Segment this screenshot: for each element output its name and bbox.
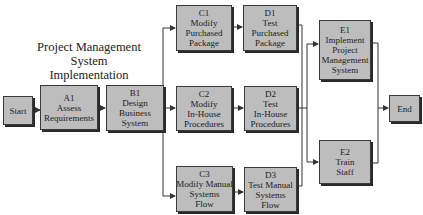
title-line-2: System Implementation bbox=[30, 54, 148, 82]
node-id: E2 bbox=[340, 147, 350, 157]
node-label-line: System bbox=[332, 65, 359, 75]
node-label-line: Modify bbox=[191, 18, 218, 28]
node-a1-assess-requirements[interactable]: A1 Assess Requirements bbox=[40, 85, 98, 130]
node-label-line: Flow bbox=[261, 200, 280, 210]
node-e2-train-staff[interactable]: E2 Train Staff bbox=[319, 140, 371, 184]
end-node[interactable]: End bbox=[389, 95, 420, 122]
node-label-line: Test bbox=[263, 99, 278, 109]
node-id: C2 bbox=[199, 89, 210, 99]
node-d3-test-manual-systems-flow[interactable]: D3 Test Manual Systems Flow bbox=[244, 167, 297, 212]
node-id: D3 bbox=[265, 170, 276, 180]
start-label: Start bbox=[10, 106, 27, 116]
node-label-line: Design bbox=[122, 98, 148, 108]
node-id: C1 bbox=[199, 8, 210, 18]
node-label-line: Business bbox=[119, 108, 151, 118]
node-id: C3 bbox=[199, 169, 210, 179]
node-label-line: Purchased bbox=[186, 28, 223, 38]
node-label-line: Package bbox=[189, 38, 219, 48]
node-e1-implement-project-management-system[interactable]: E1 Implement Project Management System bbox=[319, 20, 371, 80]
node-label-line: System bbox=[122, 118, 149, 128]
node-label-line: Systems bbox=[189, 189, 219, 199]
node-label-line: Purchased bbox=[252, 28, 289, 38]
start-node[interactable]: Start bbox=[3, 96, 33, 125]
node-label-line: Implement bbox=[326, 35, 365, 45]
node-id: A1 bbox=[64, 93, 75, 103]
node-label-line: Flow bbox=[195, 199, 214, 209]
node-c3-modify-manual-systems-flow[interactable]: C3 Modify Manual Systems Flow bbox=[176, 166, 233, 212]
node-b1-design-business-system[interactable]: B1 Design Business System bbox=[106, 85, 164, 131]
node-label-line: Project bbox=[332, 45, 358, 55]
node-label-line: Test Manual bbox=[248, 180, 293, 190]
node-label-line: Requirements bbox=[44, 113, 94, 123]
node-id: D2 bbox=[265, 89, 276, 99]
node-id: E1 bbox=[340, 25, 350, 35]
node-c1-modify-purchased-package[interactable]: C1 Modify Purchased Package bbox=[176, 5, 232, 51]
end-label: End bbox=[397, 104, 412, 114]
node-label-line: In-House bbox=[187, 109, 221, 119]
node-c2-modify-in-house-procedures[interactable]: C2 Modify In-House Procedures bbox=[176, 86, 232, 131]
node-label-line: Package bbox=[255, 38, 285, 48]
node-label-line: Modify bbox=[191, 99, 218, 109]
project-network-diagram: Project Management System Implementation… bbox=[0, 0, 423, 215]
node-label-line: Assess bbox=[57, 103, 82, 113]
node-label-line: Train bbox=[335, 157, 354, 167]
node-id: D1 bbox=[265, 8, 276, 18]
node-label-line: Test bbox=[263, 18, 278, 28]
node-id: B1 bbox=[130, 88, 141, 98]
title-line-1: Project Management bbox=[30, 40, 148, 54]
node-label-line: In-House bbox=[254, 109, 288, 119]
node-d1-test-purchased-package[interactable]: D1 Test Purchased Package bbox=[243, 5, 297, 51]
node-label-line: Staff bbox=[336, 167, 353, 177]
node-label-line: Management bbox=[322, 55, 369, 65]
node-label-line: Procedures bbox=[251, 119, 291, 129]
node-label-line: Modify Manual bbox=[176, 179, 233, 189]
diagram-title: Project Management System Implementation bbox=[30, 40, 148, 82]
node-label-line: Systems bbox=[255, 190, 285, 200]
node-d2-test-in-house-procedures[interactable]: D2 Test In-House Procedures bbox=[244, 86, 297, 131]
node-label-line: Procedures bbox=[184, 119, 224, 129]
